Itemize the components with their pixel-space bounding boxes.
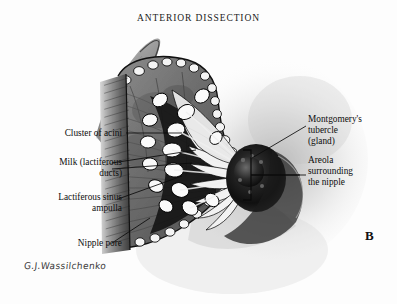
- label-lactiferous-sinus-ampulla: Lactiferous sinus ampulla: [10, 192, 122, 214]
- label-nipple-pore: Nipple pore: [10, 238, 122, 249]
- panel-label-b: B: [365, 228, 374, 244]
- label-montgomerys-tubercle: Montgomery's tubercle (gland): [308, 114, 394, 148]
- anatomical-figure: ANTERIOR DISSECTION: [0, 0, 397, 304]
- label-areola: Areola surrounding the nipple: [308, 155, 394, 189]
- breast-dissection-illustration: [0, 0, 397, 304]
- label-cluster-of-acini: Cluster of acini: [10, 128, 122, 139]
- artist-signature: G.J.Wassilchenko: [23, 261, 106, 271]
- label-milk-lactiferous-ducts: Milk (lactiferous ducts): [10, 157, 122, 179]
